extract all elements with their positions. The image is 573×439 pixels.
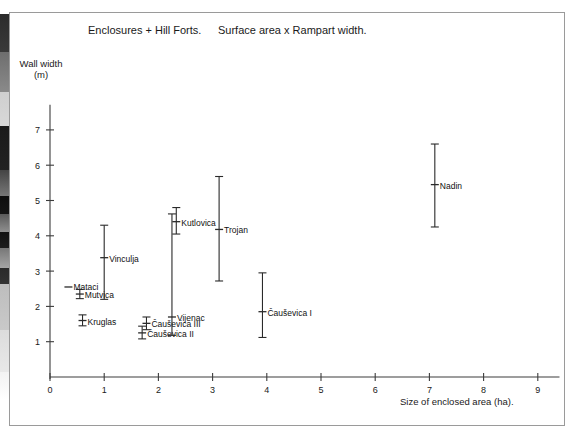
data-point-label: Nadin (440, 181, 462, 191)
data-point-label: Trojan (224, 225, 248, 235)
data-point-kutlovica: Kutlovica (172, 208, 216, 234)
data-point-čauševica-i: Čauševica I (258, 273, 311, 338)
data-point-label: Vijenac (177, 313, 205, 323)
x-tick-label: 2 (156, 385, 161, 395)
y-tick-label: 2 (35, 302, 40, 312)
x-tick-label: 1 (102, 385, 107, 395)
data-point-vijenac: Vijenac (168, 214, 205, 335)
data-point-nadin: Nadin (431, 144, 462, 227)
y-tick-label: 6 (35, 161, 40, 171)
data-point-label: Mutvica (85, 290, 115, 300)
data-point-label: Kutlovica (181, 218, 216, 228)
x-tick-label: 9 (535, 385, 540, 395)
y-tick-label: 5 (35, 196, 40, 206)
chart-figure: Enclosures + Hill Forts. Surface area x … (0, 0, 573, 439)
y-tick-label: 4 (35, 231, 40, 241)
data-point-label: Kruglas (88, 317, 117, 327)
data-point-kruglas: Kruglas (79, 315, 117, 327)
data-point-label: Vinculja (109, 254, 139, 264)
x-tick-label: 4 (264, 385, 269, 395)
y-tick-label: 3 (35, 267, 40, 277)
y-tick-label: 1 (35, 337, 40, 347)
data-point-vinculja: Vinculja (100, 225, 139, 299)
scan-edge-artifact (0, 0, 9, 439)
x-tick-label: 8 (481, 385, 486, 395)
x-tick-label: 5 (318, 385, 323, 395)
x-tick-label: 0 (47, 385, 52, 395)
x-tick-label: 6 (373, 385, 378, 395)
data-point-trojan: Trojan (215, 176, 248, 280)
x-tick-label: 7 (427, 385, 432, 395)
data-point-label: Čauševica II (147, 329, 194, 339)
data-point-label: Čauševica I (267, 308, 311, 318)
plot-area: 12345670123456789MataciMutvicaKruglasVin… (0, 0, 573, 439)
x-tick-label: 3 (210, 385, 215, 395)
y-tick-label: 7 (35, 125, 40, 135)
